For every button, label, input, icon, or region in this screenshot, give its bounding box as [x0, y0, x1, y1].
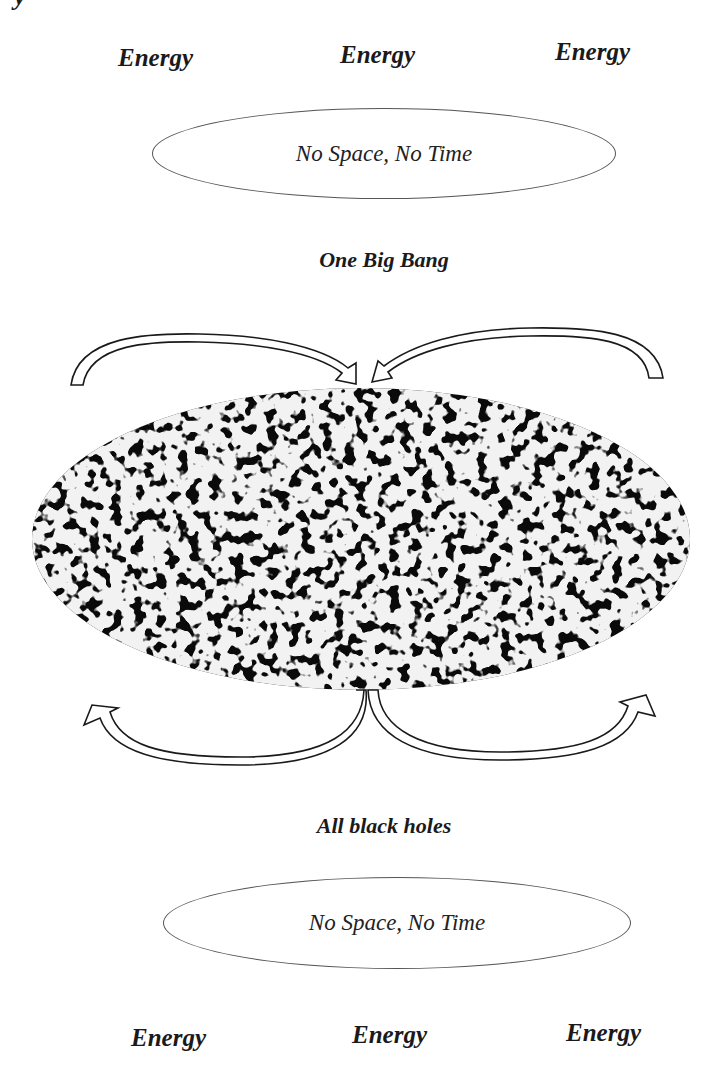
bottom-right-diverging-arrow-icon: [368, 690, 655, 760]
top-right-converging-arrow-icon: [372, 328, 663, 382]
bottom-energy-left: Energy: [131, 1024, 206, 1052]
bottom-energy-center: Energy: [352, 1021, 427, 1049]
bottom-left-diverging-arrow-icon: [84, 690, 366, 765]
top-left-converging-arrow-icon: [71, 334, 356, 385]
bottom-oval-text: No Space, No Time: [309, 910, 485, 936]
bottom-no-space-no-time-oval: No Space, No Time: [163, 877, 631, 969]
all-black-holes-caption: All black holes: [317, 813, 451, 839]
universe-cmb-ellipse: [32, 388, 692, 691]
bottom-energy-right: Energy: [566, 1019, 641, 1047]
